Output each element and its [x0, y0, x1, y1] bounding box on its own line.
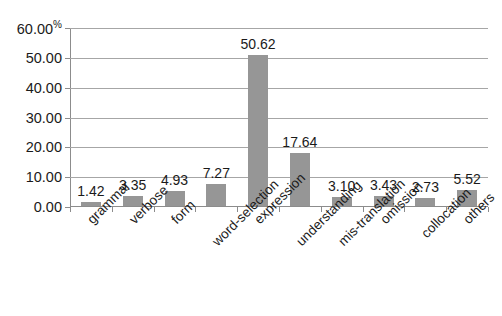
percent-sign: %: [53, 19, 62, 30]
y-axis-label: 30.00: [26, 110, 62, 125]
bar-value-label: 5.52: [453, 172, 480, 186]
gridline: [70, 58, 488, 59]
y-axis-label: 20.00: [26, 140, 62, 155]
y-axis-tick: [65, 118, 70, 119]
bar-chart: 60.00%50.0040.0030.0020.0010.000.001.423…: [0, 0, 502, 316]
bar-value-label: 17.64: [282, 135, 317, 149]
plot-area: 60.00%50.0040.0030.0020.0010.000.001.423…: [70, 28, 488, 207]
gridline: [70, 28, 488, 29]
gridline: [70, 88, 488, 89]
y-axis-tick: [65, 147, 70, 148]
bar[interactable]: [415, 198, 435, 206]
y-axis-tick: [65, 28, 70, 29]
y-axis-label: 0.00: [34, 200, 62, 215]
bar-value-label: 50.62: [241, 37, 276, 51]
bar-value-label: 1.42: [77, 184, 104, 198]
bar-value-label: 4.93: [161, 173, 188, 187]
y-axis-label: 40.00: [26, 80, 62, 95]
bar[interactable]: [206, 184, 226, 206]
bar-value-label: 7.27: [203, 166, 230, 180]
gridline: [70, 147, 488, 148]
y-axis-tick: [65, 177, 70, 178]
y-axis-tick: [65, 58, 70, 59]
y-axis-label: 60.00%: [17, 20, 62, 36]
y-axis-label: 10.00: [26, 170, 62, 185]
x-axis-tick: [70, 207, 71, 212]
y-axis-label: 50.00: [26, 51, 62, 66]
y-axis-tick: [65, 88, 70, 89]
gridline: [70, 118, 488, 119]
